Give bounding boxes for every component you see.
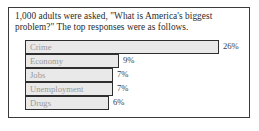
bar-unemployment: Unemployment — [25, 82, 113, 96]
bar-label: Unemployment — [30, 83, 83, 96]
bar-label: Jobs — [30, 69, 45, 82]
bar-label: Economy — [30, 55, 63, 68]
bar-label: Crime — [30, 41, 51, 54]
bar-row: Drugs 6% — [25, 96, 243, 110]
bar-row: Jobs 7% — [25, 68, 243, 82]
bar-drugs: Drugs — [25, 96, 109, 110]
bar-value: 7% — [117, 82, 128, 96]
bar-value: 6% — [113, 96, 124, 110]
bar-crime: Crime — [25, 40, 219, 54]
bar-row: Economy 9% — [25, 54, 243, 68]
bar-row: Unemployment 7% — [25, 82, 243, 96]
bar-label: Drugs — [30, 97, 51, 110]
figure-caption: 1,000 adults were asked, "What is Americ… — [15, 11, 243, 33]
bar-value: 26% — [223, 40, 239, 54]
bar-value: 7% — [117, 68, 128, 82]
bar-jobs: Jobs — [25, 68, 113, 82]
bar-economy: Economy — [25, 54, 119, 68]
bar-row: Crime 26% — [25, 40, 243, 54]
bar-value: 9% — [123, 54, 134, 68]
figure-frame: 1,000 adults were asked, "What is Americ… — [8, 7, 250, 118]
bar-chart: Crime 26% Economy 9% Jobs 7% Unemploymen… — [25, 40, 243, 113]
